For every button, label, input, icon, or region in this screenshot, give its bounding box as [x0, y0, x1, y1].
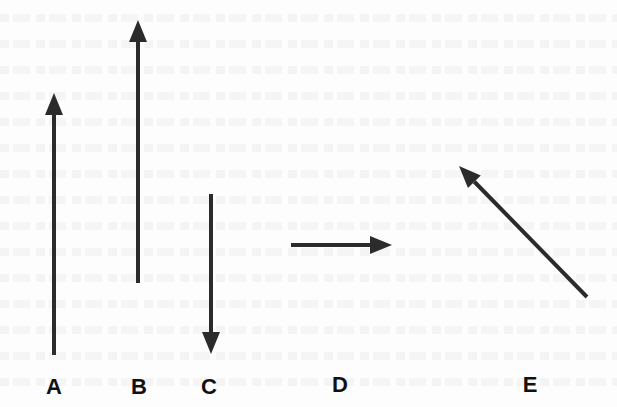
arrow-c-head-icon — [202, 332, 220, 354]
label-e: E — [523, 372, 538, 398]
arrow-e-shaft — [474, 182, 587, 297]
arrow-b-head-icon — [129, 20, 147, 42]
label-b: B — [131, 374, 147, 400]
label-a: A — [46, 374, 62, 400]
arrow-d-head-icon — [370, 236, 392, 254]
label-c: C — [201, 374, 217, 400]
arrow-diagram: A B C D E — [0, 0, 617, 407]
arrow-a-head-icon — [45, 93, 63, 115]
arrows-canvas — [0, 0, 617, 407]
label-d: D — [332, 372, 348, 398]
